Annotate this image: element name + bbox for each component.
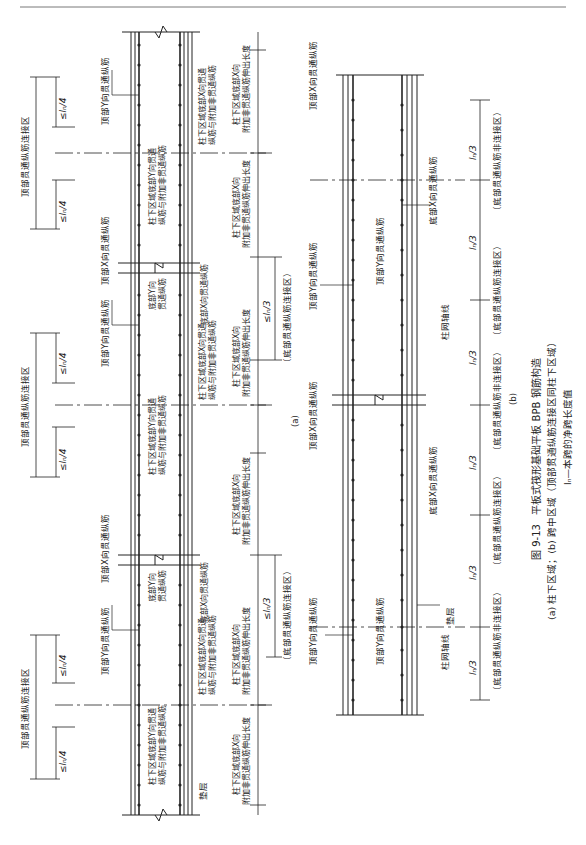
col-bottom-y-label-1a: 柱下区域底部Y向贯通 [148, 148, 158, 225]
col-bottom-y-label-3a: 柱下区域底部Y向贯通 [148, 708, 158, 785]
extension-label-3b: 附加非贯通纵筋伸出长度 [242, 309, 252, 397]
b-non-splice-label-1: （底部贯通纵筋非连接区） [492, 107, 502, 215]
figure-title-number: 图 9-13 平板式筏形基础平板 BPB 钢筋构造 [528, 358, 543, 560]
b-bottom-x-rebar-label-2: 底部X向贯通纵筋 [428, 446, 438, 515]
col-bottom-y-label-1b: 纵筋与附加非贯通纵筋 [158, 145, 168, 225]
bottom-y-rebar-label-2b: 贯通纵筋 [158, 570, 168, 602]
extension-label-3a: 柱下区域底部X向 [232, 326, 242, 387]
b-splice-label: （底部贯通纵筋连接区） [492, 241, 502, 340]
bottom-y-rebar-label-2a: 底部Y向 [148, 573, 158, 602]
extension-label-2b: 附加非贯通纵筋伸出长度 [242, 160, 252, 248]
top-splice-zone-label-3: 顶部贯通纵筋连接区 [20, 668, 30, 749]
dim-quarter-3a: ≤lₙ/4 [58, 655, 68, 677]
top-y-rebar-label-2: 顶部Y向贯通纵筋 [100, 299, 110, 367]
top-splice-zone-label-1: 顶部贯通纵筋连接区 [20, 116, 30, 197]
b-dim-third-3: lₙ/3 [468, 350, 478, 365]
extension-label-6b: 附加非贯通纵筋伸出长度 [242, 717, 252, 805]
panel-a-tag: (a) [290, 415, 300, 427]
dim-quarter-1a: ≤lₙ/4 [58, 98, 68, 120]
top-y-rebar-label-3: 顶部Y向贯通纵筋 [100, 607, 110, 675]
b-top-y-rebar-label-1: 顶部Y向贯通纵筋 [308, 242, 318, 310]
b-dim-third-2: lₙ/3 [468, 235, 478, 250]
col-bottom-y-label-3b: 纵筋与附加非贯通纵筋 [158, 705, 168, 785]
col-bottom-y-label-2a: 柱下区域底部Y向贯通 [148, 398, 158, 475]
b-splice-label-2: （底部贯通纵筋连接区） [492, 471, 502, 570]
dim-quarter-3b: ≤lₙ/4 [58, 751, 68, 773]
extension-label-6a: 柱下区域底部X向 [232, 734, 242, 795]
top-x-rebar-label-1: 顶部X向贯通纵筋 [100, 216, 110, 285]
b-dim-third-1: lₙ/3 [468, 145, 478, 160]
col-bottom-x-label-1a: 柱下区域底部X向贯通 [198, 68, 208, 145]
dim-quarter-2a: ≤lₙ/4 [58, 353, 68, 375]
top-x-rebar-label-2: 顶部X向贯通纵筋 [100, 514, 110, 583]
drawing-canvas: 顶部贯通纵筋连接区 顶部贯通纵筋连接区 顶部贯通纵筋连接区 ≤lₙ/4 ≤lₙ/… [0, 0, 586, 845]
bottom-x-rebar-label-1: 底部X向贯通纵筋 [200, 264, 210, 325]
figure-note: lₙ—本跨的净跨长度值 [560, 389, 574, 485]
b-column-axis-label-1: 柱网轴线 [440, 304, 450, 340]
b-non-splice-label-2: （底部贯通纵筋非连接区） [492, 347, 502, 455]
bottom-x-rebar-label-2: 底部X向贯通纵筋 [200, 562, 210, 623]
col-bottom-x-label-2a: 柱下区域底部X向贯通 [198, 323, 208, 400]
extension-label-2a: 柱下区域底部X向 [232, 177, 242, 238]
col-bottom-x-label-3a: 柱下区域底部X向贯通 [198, 618, 208, 695]
cushion-label-a: 垫层 [198, 782, 208, 800]
top-y-rebar-label-1: 顶部Y向贯通纵筋 [100, 57, 110, 125]
dim-quarter-2b: ≤lₙ/4 [58, 449, 68, 471]
extension-label-1b: 附加非贯通纵筋伸出长度 [242, 45, 252, 133]
bottom-splice-zone-label-1: （底部贯通纵筋连接区） [282, 268, 292, 367]
figure-number: 图 9-13 [531, 524, 542, 560]
col-bottom-x-label-2b: 纵筋与附加非贯通纵筋 [208, 320, 218, 400]
extension-label-1a: 柱下区域底部X向 [232, 64, 242, 125]
col-bottom-x-label-1b: 纵筋与附加非贯通纵筋 [208, 65, 218, 145]
b-dim-third-4: lₙ/3 [468, 455, 478, 470]
b-top-x-rebar-label-2: 顶部X向贯通纵筋 [308, 381, 318, 450]
b-non-splice-label-3: （底部贯通纵筋非连接区） [492, 587, 502, 695]
bottom-splice-zone-label-2: （底部贯通纵筋连接区） [282, 566, 292, 665]
b-top-y-rebar-label-3: 顶部Y向贯通纵筋 [308, 597, 318, 665]
dim-third-1: ≤lₙ/3 [262, 301, 272, 323]
panel-b-tag: (b) [508, 393, 518, 405]
b-dim-third-5: lₙ/3 [468, 565, 478, 580]
extension-label-4b: 附加非贯通纵筋伸出长度 [242, 457, 252, 545]
b-top-y-rebar-label-4: 顶部Y向贯通纵筋 [375, 597, 385, 665]
col-bottom-y-label-2b: 纵筋与附加非贯通纵筋 [158, 395, 168, 475]
b-top-x-rebar-label-1: 顶部X向贯通纵筋 [308, 41, 318, 110]
b-dim-third-6: lₙ/3 [468, 660, 478, 675]
extension-label-5b: 附加非贯通纵筋伸出长度 [242, 607, 252, 695]
b-top-y-rebar-label-2: 顶部Y向贯通纵筋 [375, 217, 385, 285]
b-bottom-x-rebar-label-1: 底部X向贯通纵筋 [428, 156, 438, 225]
col-bottom-x-label-3b: 纵筋与附加非贯通纵筋 [208, 615, 218, 695]
bottom-y-rebar-label-1a: 底部Y向 [148, 281, 158, 310]
b-cushion-label: 垫层 [445, 607, 455, 625]
dim-quarter-1b: ≤lₙ/4 [58, 201, 68, 223]
bottom-y-rebar-label-1b: 贯通纵筋 [158, 278, 168, 310]
top-splice-zone-label-2: 顶部贯通纵筋连接区 [20, 366, 30, 447]
figure-subcaption: (a) 柱下区域；(b) 跨中区域（顶部贯通纵筋连接区同柱下区域） [544, 337, 558, 620]
figure-title: 平板式筏形基础平板 BPB 钢筋构造 [531, 358, 542, 514]
dim-third-2: ≤lₙ/3 [262, 598, 272, 620]
extension-label-4a: 柱下区域底部X向 [232, 474, 242, 535]
b-column-axis-label-2: 柱网轴线 [440, 634, 450, 670]
extension-label-5a: 柱下区域底部X向 [232, 624, 242, 685]
